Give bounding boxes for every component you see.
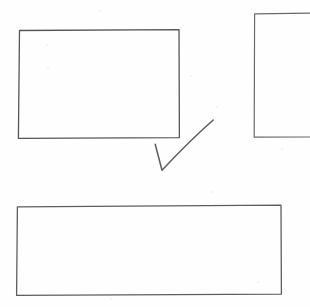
bottom-rectangle [17,205,282,295]
sketch-drawing-surface [0,0,310,307]
top-right-rectangle-outline [254,13,310,137]
bottom-rectangle-outline [17,205,282,295]
top-right-rectangle [254,13,310,137]
sketch-canvas [0,0,310,307]
check-mark [155,120,213,170]
top-left-rectangle-outline [18,30,179,139]
top-left-rectangle [18,30,179,139]
check-mark-stroke [155,120,213,170]
